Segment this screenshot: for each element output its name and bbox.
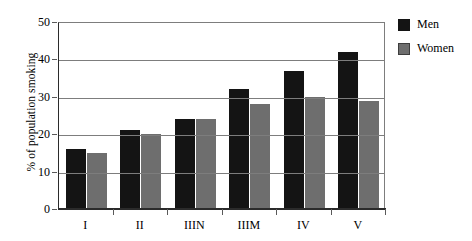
legend-item-men: Men: [398, 18, 472, 31]
bar-group: [175, 23, 216, 209]
x-axis-tick-label: IIIM: [219, 219, 279, 232]
x-axis-tick-mark: [113, 209, 114, 215]
x-axis-tick-label: II: [110, 219, 170, 232]
y-axis-tick-label: 10: [24, 166, 50, 178]
bar-men-ii: [120, 130, 140, 209]
x-axis-tick-label: IV: [273, 219, 333, 232]
legend-item-women: Women: [398, 42, 472, 55]
legend-swatch-men-icon: [398, 19, 410, 31]
y-axis-tick-labels: 01020304050: [24, 22, 50, 209]
chart-legend: MenWomen: [398, 18, 472, 66]
y-axis-tick-mark: [52, 172, 57, 173]
x-axis-tick-mark: [331, 209, 332, 215]
bar-group: [120, 23, 161, 209]
bar-women-iiin: [196, 119, 216, 209]
x-axis-tick-label: IIIN: [164, 219, 224, 232]
x-axis-tick-mark: [167, 209, 168, 215]
bar-men-iiim: [229, 89, 249, 209]
bar-men-v: [338, 52, 358, 209]
bar-group: [284, 23, 325, 209]
bar-women-iiim: [250, 104, 270, 209]
gridline: [59, 135, 384, 136]
bar-group: [229, 23, 270, 209]
bar-men-i: [66, 149, 86, 209]
legend-swatch-women-icon: [398, 43, 410, 55]
y-axis-tick-label: 30: [24, 91, 50, 103]
y-axis-tick-label: 20: [24, 128, 50, 140]
gridline: [59, 60, 384, 61]
bar-women-v: [359, 101, 379, 209]
bar-group: [338, 23, 379, 209]
y-axis-tick-mark: [52, 209, 57, 210]
x-axis-tick-mark: [222, 209, 223, 215]
bar-women-i: [87, 153, 107, 209]
x-axis-tick-mark: [276, 209, 277, 215]
y-axis-tick-label: 0: [24, 203, 50, 215]
x-axis-tick-mark: [385, 209, 386, 215]
x-axis-tick-label: V: [328, 219, 388, 232]
legend-label: Men: [417, 18, 439, 31]
legend-label: Women: [417, 42, 454, 55]
y-axis-tick-mark: [52, 97, 57, 98]
plot-area: [58, 22, 385, 209]
bar-women-ii: [141, 134, 161, 209]
bars-layer: [59, 23, 384, 209]
bar-men-iv: [284, 71, 304, 209]
y-axis-tick-mark: [52, 59, 57, 60]
bar-group: [66, 23, 107, 209]
gridline: [59, 173, 384, 174]
y-axis-tick-mark: [52, 22, 57, 23]
y-axis-tick-label: 40: [24, 53, 50, 65]
smoking-by-social-class-bar-chart: % of population smoking 01020304050 IIII…: [0, 0, 472, 241]
gridline: [59, 98, 384, 99]
bar-women-iv: [305, 97, 325, 209]
x-axis-tick-label: I: [55, 219, 115, 232]
y-axis-tick-mark: [52, 134, 57, 135]
bar-men-iiin: [175, 119, 195, 209]
y-axis-tick-label: 50: [24, 16, 50, 28]
